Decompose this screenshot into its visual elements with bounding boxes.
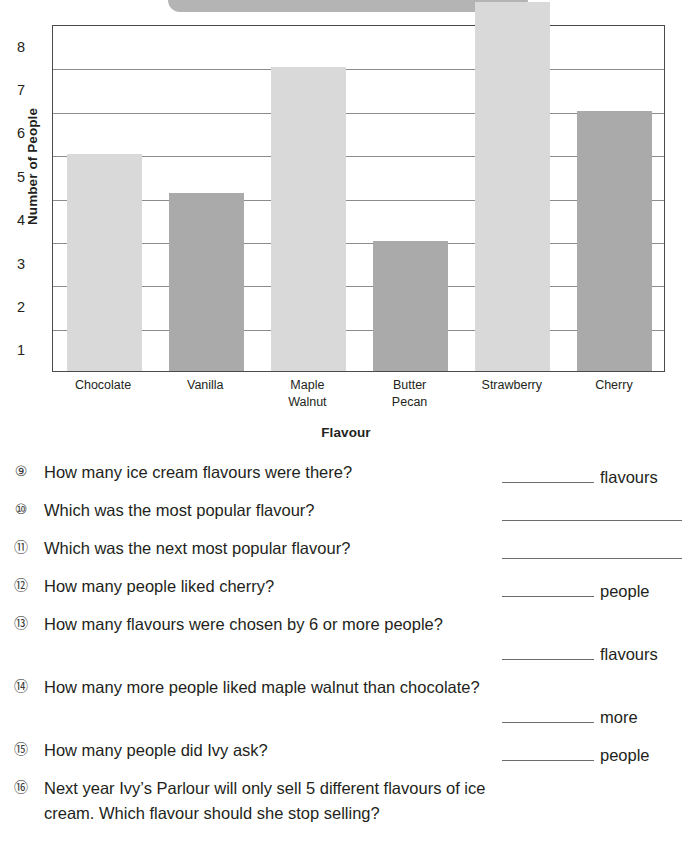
- x-tick-chocolate: Chocolate: [52, 377, 154, 394]
- y-tick-4: 4: [0, 213, 25, 228]
- x-tick-strawberry: Strawberry: [461, 377, 563, 394]
- gridline: [53, 286, 664, 287]
- bar-chocolate: [67, 154, 142, 371]
- y-axis-title: Number of People: [25, 82, 40, 252]
- question-text: How many ice cream flavours were there?: [44, 460, 494, 485]
- answer-area: [492, 776, 692, 857]
- x-tick-cherry: Cherry: [563, 377, 665, 394]
- answer-blank-line[interactable]: [502, 558, 682, 559]
- question-number: ⑮: [8, 738, 34, 760]
- question-row: ⑩Which was the most popular flavour?: [0, 498, 692, 529]
- answer-blank-line[interactable]: [502, 596, 594, 597]
- x-tick-maple-walnut: MapleWalnut: [256, 377, 358, 410]
- x-tick-line: Pecan: [392, 395, 427, 409]
- question-number: ⑨: [8, 460, 34, 482]
- question-number: ⑬: [8, 612, 34, 634]
- bar-butter-pecan: [373, 241, 448, 371]
- x-tick-line: Strawberry: [482, 378, 542, 392]
- y-tick-5: 5: [0, 170, 25, 185]
- question-text: Which was the most popular flavour?: [44, 498, 494, 523]
- answer-unit-label: flavours: [600, 644, 658, 664]
- x-tick-line: Walnut: [288, 395, 326, 409]
- question-text: Next year Ivy’s Parlour will only sell 5…: [44, 776, 494, 826]
- bar-vanilla: [169, 193, 244, 371]
- x-tick-line: Maple: [290, 378, 324, 392]
- y-tick-1: 1: [0, 343, 25, 358]
- x-tick-vanilla: Vanilla: [154, 377, 256, 394]
- answer-blank-line[interactable]: [502, 482, 594, 483]
- question-row: ⑯Next year Ivy’s Parlour will only sell …: [0, 776, 692, 857]
- y-tick-6: 6: [0, 126, 25, 141]
- gridline: [53, 200, 664, 201]
- answer-unit-label: flavours: [600, 467, 658, 487]
- answer-unit-label: more: [600, 707, 638, 727]
- answer-unit-label: people: [600, 581, 650, 601]
- question-row: ⑬How many flavours were chosen by 6 or m…: [0, 612, 692, 668]
- question-text: How many people did Ivy ask?: [44, 738, 494, 763]
- y-tick-3: 3: [0, 257, 25, 272]
- answer-blank-line[interactable]: [502, 520, 682, 521]
- question-text: How many people liked cherry?: [44, 574, 494, 599]
- question-row: ⑮How many people did Ivy ask?people: [0, 738, 692, 769]
- question-row: ⑭How many more people liked maple walnut…: [0, 675, 692, 731]
- question-number: ⑯: [8, 776, 34, 798]
- x-axis-title: Flavour: [0, 425, 692, 440]
- answer-area: people: [492, 738, 692, 769]
- answer-area: more: [492, 675, 692, 731]
- x-tick-line: Vanilla: [187, 378, 224, 392]
- gridline: [53, 243, 664, 244]
- answer-area: flavours: [492, 612, 692, 668]
- x-tick-line: Chocolate: [75, 378, 131, 392]
- gridline: [53, 330, 664, 331]
- x-tick-line: Butter: [393, 378, 426, 392]
- bar-strawberry: [475, 2, 550, 371]
- plot-area: [52, 25, 665, 372]
- answer-blank-line[interactable]: [502, 722, 594, 723]
- gridline: [53, 156, 664, 157]
- y-tick-8: 8: [0, 40, 25, 55]
- question-row: ⑪Which was the next most popular flavour…: [0, 536, 692, 567]
- bar-maple-walnut: [271, 67, 346, 371]
- x-tick-line: Cherry: [595, 378, 633, 392]
- x-tick-butter-pecan: ButterPecan: [359, 377, 461, 410]
- answer-area: flavours: [492, 460, 692, 491]
- question-text: How many flavours were chosen by 6 or mo…: [44, 612, 494, 637]
- answer-area: [492, 536, 692, 567]
- y-tick-7: 7: [0, 83, 25, 98]
- question-number: ⑫: [8, 574, 34, 596]
- question-row: ⑨How many ice cream flavours were there?…: [0, 460, 692, 491]
- answer-area: people: [492, 574, 692, 605]
- question-number: ⑭: [8, 675, 34, 697]
- gridline: [53, 113, 664, 114]
- y-tick-2: 2: [0, 300, 25, 315]
- question-text: Which was the next most popular flavour?: [44, 536, 494, 561]
- question-row: ⑫How many people liked cherry?people: [0, 574, 692, 605]
- bar-cherry: [577, 111, 652, 371]
- question-text: How many more people liked maple walnut …: [44, 675, 494, 700]
- answer-blank-line[interactable]: [502, 659, 594, 660]
- answer-unit-label: people: [600, 745, 650, 765]
- gridline: [53, 69, 664, 70]
- question-number: ⑪: [8, 536, 34, 558]
- answer-area: [492, 498, 692, 529]
- bar-chart: Number of People 87654321 ChocolateVanil…: [0, 0, 692, 450]
- question-number: ⑩: [8, 498, 34, 520]
- answer-blank-line[interactable]: [502, 760, 594, 761]
